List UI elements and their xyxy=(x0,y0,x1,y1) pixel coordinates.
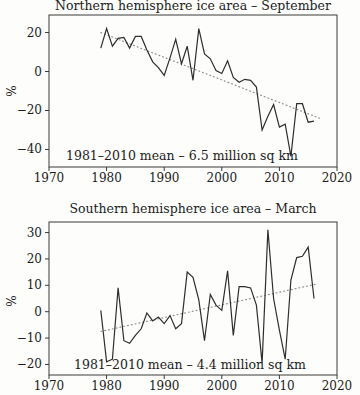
chart-northern-hemisphere-ice: Northern hemisphere ice area – September… xyxy=(0,0,360,197)
x-tick-label: 1980 xyxy=(91,171,122,185)
x-tick-label: 1970 xyxy=(34,171,65,185)
southern-y-axis-label: % xyxy=(5,295,19,306)
x-tick-label: 2010 xyxy=(264,379,295,393)
figure-page: Northern hemisphere ice area – September… xyxy=(0,0,360,395)
x-tick-label: 2020 xyxy=(322,171,353,185)
northern-mean-annotation: 1981–2010 mean – 6.5 million sq km xyxy=(66,148,298,163)
southern-chart-title: Southern hemisphere ice area – March xyxy=(69,201,316,216)
y-tick-label: −20 xyxy=(17,103,42,117)
x-tick-label: 2010 xyxy=(264,171,295,185)
y-tick-label: 30 xyxy=(27,226,42,240)
y-tick-label: −10 xyxy=(17,331,42,345)
northern-chart-canvas: Northern hemisphere ice area – September… xyxy=(0,0,360,197)
x-tick-label: 1990 xyxy=(149,171,180,185)
axis-box xyxy=(49,222,337,375)
x-tick-label: 2000 xyxy=(207,379,238,393)
x-tick-label: 1980 xyxy=(91,379,122,393)
data-series-line xyxy=(101,230,314,363)
northern-y-axis-label: % xyxy=(5,85,19,96)
y-tick-label: 0 xyxy=(34,305,42,319)
northern-chart-title: Northern hemisphere ice area – September xyxy=(55,0,331,13)
chart-southern-hemisphere-ice: Southern hemisphere ice area – March % 3… xyxy=(0,197,360,395)
x-tick-label: 2020 xyxy=(322,379,353,393)
southern-mean-annotation: 1981–2010 mean – 4.4 million sq km xyxy=(74,357,306,372)
y-tick-label: −40 xyxy=(17,142,42,156)
x-tick-label: 2000 xyxy=(207,171,238,185)
y-tick-label: 20 xyxy=(27,252,42,266)
trend-line xyxy=(101,33,320,119)
southern-chart-canvas: Southern hemisphere ice area – March % 3… xyxy=(0,197,360,395)
y-tick-label: 10 xyxy=(27,278,42,292)
x-tick-label: 1970 xyxy=(34,379,65,393)
x-tick-label: 1990 xyxy=(149,379,180,393)
y-tick-label: 20 xyxy=(27,26,42,40)
y-tick-label: 0 xyxy=(34,65,42,79)
data-series-line xyxy=(101,29,314,157)
y-tick-label: −20 xyxy=(17,357,42,371)
axis-box xyxy=(49,15,337,167)
